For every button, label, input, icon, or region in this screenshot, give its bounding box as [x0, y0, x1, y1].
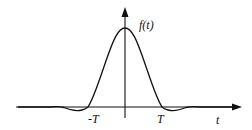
y-axis-arrow-icon — [122, 7, 129, 17]
function-label: f(t) — [139, 19, 154, 31]
x-axis-label: t — [216, 114, 219, 126]
tick-label-t: T — [157, 113, 164, 125]
x-axis-arrow-icon — [232, 104, 242, 111]
tick-label-neg-t: -T — [88, 113, 99, 125]
pulse-diagram: f(t) -T T t — [0, 0, 252, 130]
